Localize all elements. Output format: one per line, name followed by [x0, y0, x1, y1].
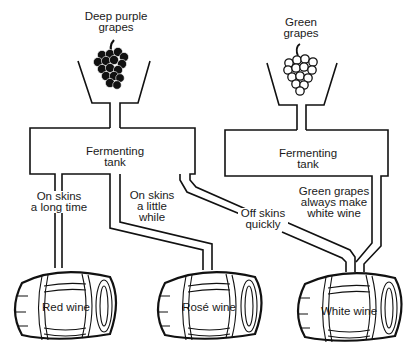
green-grapes-icon — [284, 44, 317, 95]
label-off-skins-quickly: Off skins quickly — [238, 208, 288, 230]
label-on-skins-long: On skins a long time — [28, 191, 90, 213]
label-deep-purple-grapes: Deep purple grapes — [76, 11, 156, 33]
label-right-tank: Fermenting tank — [258, 148, 358, 170]
label-rose-wine: Rosé wine — [173, 302, 245, 313]
label-green-always-white: Green grapes always make white wine — [294, 186, 374, 219]
label-red-wine: Red wine — [30, 302, 102, 313]
label-white-wine: White wine — [313, 306, 385, 317]
label-on-skins-little: On skins a little while — [124, 190, 180, 223]
label-left-tank: Fermenting tank — [70, 146, 160, 168]
purple-grapes-icon — [93, 40, 128, 89]
label-green-grapes: Green grapes — [266, 17, 336, 39]
